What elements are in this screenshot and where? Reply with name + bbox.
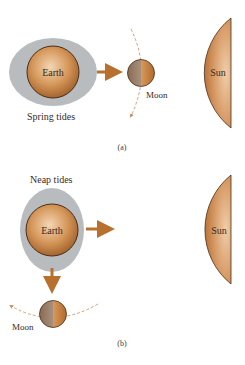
moon-a (128, 60, 155, 87)
neap-tides-label: Neap tides (30, 174, 73, 185)
moon-label-a: Moon (146, 90, 168, 100)
tides-diagram: Earth Moon Sun Spring tides (a) Neap tid… (0, 0, 245, 365)
panel-a: Earth Moon Sun Spring tides (a) (9, 18, 231, 152)
spring-tides-label: Spring tides (27, 111, 75, 122)
sun-label-b: Sun (211, 225, 227, 236)
sun-label-a: Sun (210, 67, 226, 78)
earth-label-b: Earth (41, 225, 63, 236)
earth-label-a: Earth (42, 67, 64, 78)
moon-b (40, 301, 67, 328)
caption-b: (b) (117, 339, 127, 348)
caption-a: (a) (118, 143, 127, 152)
moon-label-b: Moon (12, 322, 34, 332)
panel-b: Neap tides Earth Moon Sun (b) (11, 174, 231, 348)
